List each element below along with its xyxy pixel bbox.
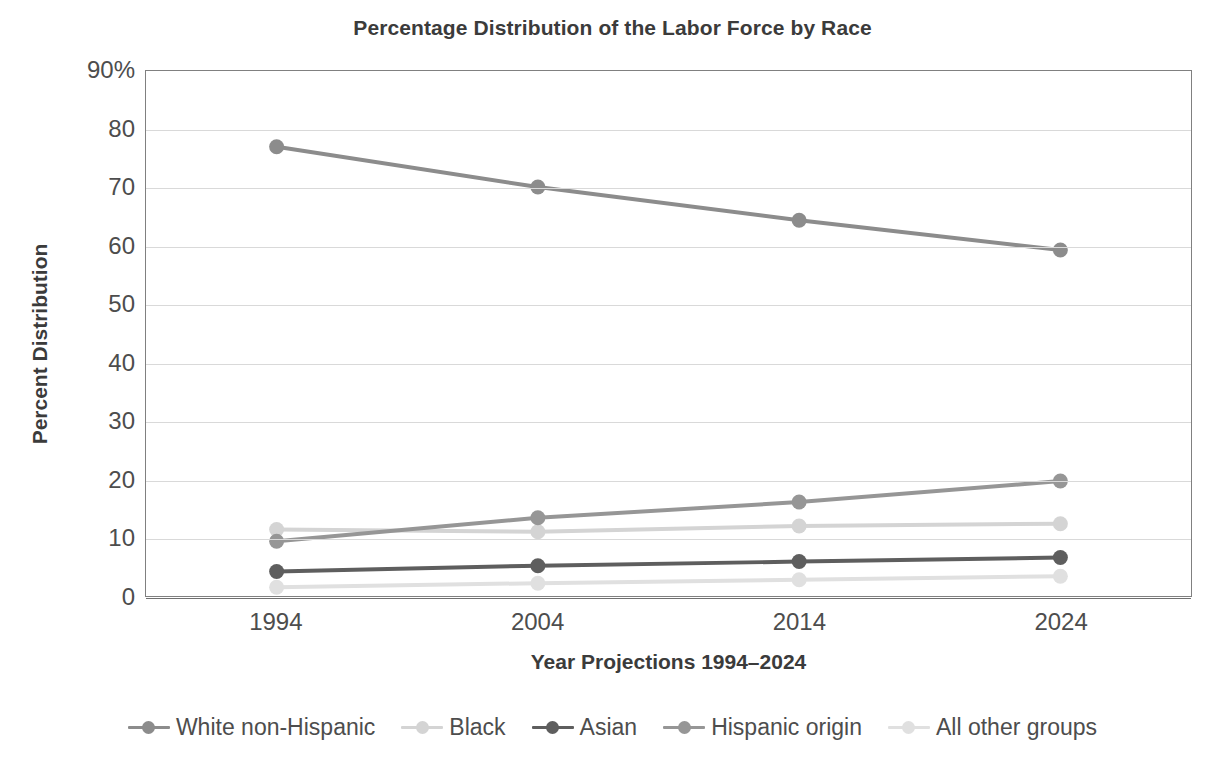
y-tick-label: 20 (45, 468, 135, 492)
gridline (146, 481, 1191, 482)
data-point (1053, 243, 1068, 258)
series-line (277, 481, 1061, 541)
chart-container: Percentage Distribution of the Labor For… (0, 0, 1225, 761)
gridline (146, 539, 1191, 540)
y-tick-label: 80 (45, 117, 135, 141)
y-tick-label: 40 (45, 351, 135, 375)
gridline (146, 598, 1191, 599)
data-point (792, 572, 807, 587)
legend-label: Black (449, 714, 505, 741)
data-point (530, 510, 545, 525)
data-point (1053, 569, 1068, 584)
data-point (792, 495, 807, 510)
legend-dot (142, 721, 155, 734)
series-line (277, 576, 1061, 587)
legend-dot (678, 721, 691, 734)
x-tick-label: 2014 (719, 608, 879, 636)
y-tick-label: 10 (45, 526, 135, 550)
y-tick-label: 50 (45, 292, 135, 316)
gridline (146, 247, 1191, 248)
data-point (792, 213, 807, 228)
data-point (269, 139, 284, 154)
series-line (277, 147, 1061, 250)
series-plot (146, 71, 1191, 596)
legend-dot (416, 721, 429, 734)
legend-marker-icon (663, 719, 705, 737)
y-tick-label: 70 (45, 175, 135, 199)
series-all-other-groups (269, 569, 1068, 595)
plot-area (145, 70, 1192, 597)
chart-legend: White non-HispanicBlackAsianHispanic ori… (0, 714, 1225, 741)
data-point (269, 564, 284, 579)
data-point (792, 554, 807, 569)
legend-label: Asian (580, 714, 638, 741)
gridline (146, 305, 1191, 306)
legend-marker-icon (532, 719, 574, 737)
data-point (530, 558, 545, 573)
gridline (146, 188, 1191, 189)
data-point (269, 580, 284, 595)
data-point (269, 534, 284, 549)
legend-label: White non-Hispanic (176, 714, 375, 741)
data-point (1053, 516, 1068, 531)
series-line (277, 558, 1061, 572)
x-tick-label: 2024 (981, 608, 1141, 636)
series-asian (269, 550, 1068, 579)
legend-dot (902, 721, 915, 734)
data-point (530, 524, 545, 539)
gridline (146, 364, 1191, 365)
legend-marker-icon (401, 719, 443, 737)
legend-label: Hispanic origin (711, 714, 862, 741)
data-point (792, 519, 807, 534)
legend-dot (546, 721, 559, 734)
legend-item-asian[interactable]: Asian (532, 714, 638, 741)
legend-marker-icon (888, 719, 930, 737)
y-tick-label: 90% (45, 58, 135, 82)
data-point (1053, 550, 1068, 565)
legend-marker-icon (128, 719, 170, 737)
legend-item-hispanic-origin[interactable]: Hispanic origin (663, 714, 862, 741)
gridline (146, 422, 1191, 423)
y-tick-label: 60 (45, 234, 135, 258)
series-white-non-hispanic (269, 139, 1068, 257)
x-axis-title: Year Projections 1994–2024 (145, 650, 1192, 674)
series-black (269, 516, 1068, 539)
gridline (146, 130, 1191, 131)
legend-label: All other groups (936, 714, 1097, 741)
legend-item-black[interactable]: Black (401, 714, 505, 741)
x-tick-label: 1994 (196, 608, 356, 636)
y-tick-label: 0 (45, 585, 135, 609)
series-hispanic-origin (269, 474, 1068, 549)
legend-item-all-other-groups[interactable]: All other groups (888, 714, 1097, 741)
x-tick-label: 2004 (458, 608, 618, 636)
data-point (530, 180, 545, 195)
legend-item-white-non-hispanic[interactable]: White non-Hispanic (128, 714, 375, 741)
data-point (530, 576, 545, 591)
y-tick-label: 30 (45, 409, 135, 433)
